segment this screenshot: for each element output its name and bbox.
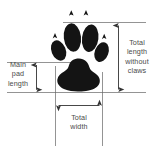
label-main-pad-length: Main pad length (1, 60, 35, 88)
claw-mark-outer-left (53, 33, 58, 38)
claw-mark-inner-left (69, 10, 74, 16)
claw-mark-outer-right (102, 34, 107, 39)
paw-print-measurement-diagram: Total length without claws Main pad leng… (0, 0, 163, 157)
label-total-width: Total width (54, 113, 104, 132)
claw-mark-inner-right (84, 10, 89, 16)
main-pad (57, 59, 100, 92)
label-total-length-without-claws: Total length without claws (112, 38, 162, 75)
